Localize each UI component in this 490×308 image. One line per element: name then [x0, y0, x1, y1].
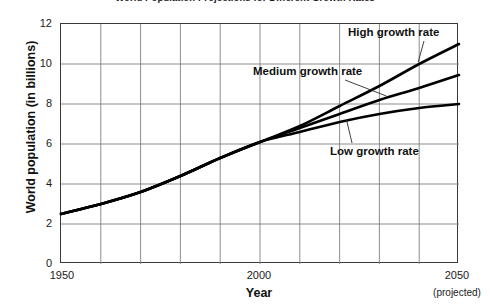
- chart-title: World Population Projections for Differe…: [0, 0, 490, 3]
- population-projection-chart: World Population Projections for Differe…: [0, 0, 490, 308]
- x-axis-projected-note: (projected): [412, 288, 490, 298]
- y-axis-title: World population (in billions): [24, 17, 38, 237]
- plot-area: [60, 23, 458, 263]
- x-axis-tick-2000: 2000: [214, 270, 304, 281]
- y-axis-tick-0: 0: [12, 258, 52, 269]
- x-axis-title: Year: [204, 286, 314, 300]
- series-lines: [61, 24, 459, 264]
- annotation-medium-growth-rate: Medium growth rate: [253, 66, 362, 78]
- annotation-high-growth-rate: High growth rate: [348, 27, 439, 39]
- series-line: [61, 104, 459, 214]
- x-axis-tick-2050: 2050: [412, 270, 490, 281]
- x-axis-tick-1950: 1950: [17, 270, 107, 281]
- annotation-low-growth-rate: Low growth rate: [330, 146, 419, 158]
